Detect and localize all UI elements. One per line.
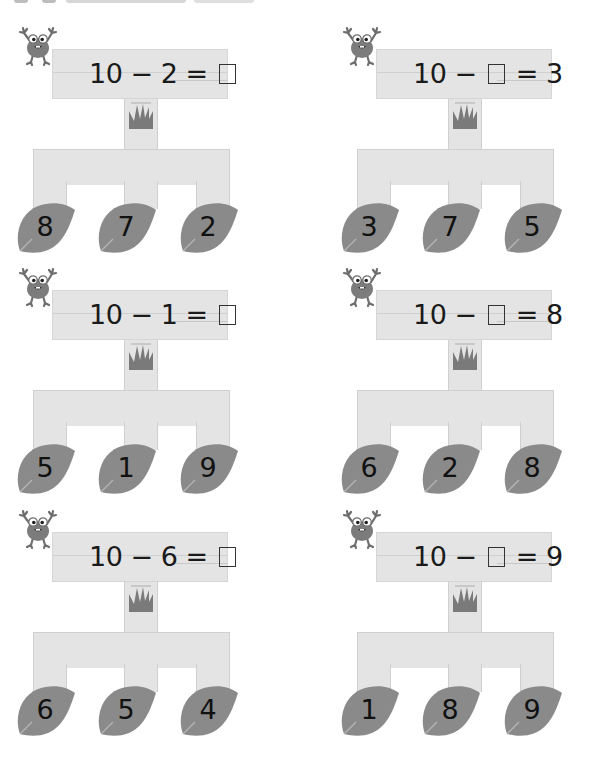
answer-box[interactable] (488, 305, 505, 325)
result (216, 299, 239, 330)
equation-sign: 10 − = 3 (376, 49, 552, 99)
branch-bar (33, 390, 230, 426)
minus-sign: − (130, 58, 152, 89)
leaf-number: 8 (501, 451, 563, 485)
subtrahend: 1 (161, 299, 178, 330)
leaf-choice[interactable]: 2 (419, 442, 481, 494)
leaf-choice[interactable]: 1 (95, 442, 157, 494)
leaf-choice[interactable]: 7 (419, 201, 481, 253)
grass-icon (126, 342, 156, 372)
grass-icon (126, 584, 156, 614)
frog-icon (14, 21, 64, 71)
equation: 10 − 1 = (89, 297, 239, 333)
subtrahend (485, 541, 508, 572)
branch-bar (357, 149, 554, 185)
grass-icon (126, 101, 156, 131)
leaf-number: 9 (177, 451, 239, 485)
equation: 10 − 6 = (89, 539, 239, 575)
leaf-number: 7 (95, 210, 157, 244)
minuend: 10 (413, 299, 446, 330)
leaf-choice[interactable]: 5 (95, 684, 157, 736)
frog-icon (14, 262, 64, 312)
leaf-choice[interactable]: 1 (338, 684, 400, 736)
leaf-choice[interactable]: 6 (14, 684, 76, 736)
equation-sign: 10 − 6 = (52, 532, 228, 582)
result: 3 (546, 58, 563, 89)
equation: 10 − 2 = (89, 56, 239, 92)
leaf-number: 1 (95, 451, 157, 485)
minus-sign: − (130, 541, 152, 572)
leaf-number: 2 (419, 451, 481, 485)
subtraction-puzzle: 10 − = 8 6 2 8 (338, 262, 596, 502)
answer-box[interactable] (219, 64, 236, 84)
equation-sign: 10 − 1 = (52, 290, 228, 340)
frog-icon (14, 504, 64, 554)
leaf-choice[interactable]: 8 (501, 442, 563, 494)
leaf-choice[interactable]: 8 (14, 201, 76, 253)
leaf-number: 7 (419, 210, 481, 244)
leaf-choice[interactable]: 5 (14, 442, 76, 494)
equation: 10 − = 3 (413, 56, 563, 92)
branch-bar (357, 390, 554, 426)
leaf-number: 5 (14, 451, 76, 485)
subtraction-puzzle: 10 − = 9 1 8 9 (338, 504, 596, 744)
result: 9 (546, 541, 563, 572)
leaf-choice[interactable]: 4 (177, 684, 239, 736)
leaf-choice[interactable]: 6 (338, 442, 400, 494)
subtrahend (485, 58, 508, 89)
subtraction-puzzle: 10 − 1 = 5 1 9 (14, 262, 274, 502)
grass-icon (450, 584, 480, 614)
leaf-number: 6 (338, 451, 400, 485)
equals-sign: = (185, 58, 207, 89)
result (216, 58, 239, 89)
leaf-choice[interactable]: 5 (501, 201, 563, 253)
equals-sign: = (516, 541, 538, 572)
equation-sign: 10 − = 8 (376, 290, 552, 340)
leaf-choice[interactable]: 9 (501, 684, 563, 736)
minuend: 10 (89, 299, 122, 330)
leaf-choice[interactable]: 8 (419, 684, 481, 736)
minus-sign: − (454, 58, 476, 89)
answer-box[interactable] (219, 305, 236, 325)
minuend: 10 (89, 58, 122, 89)
leaf-number: 5 (95, 693, 157, 727)
leaf-number: 1 (338, 693, 400, 727)
equation: 10 − = 8 (413, 297, 563, 333)
leaf-number: 2 (177, 210, 239, 244)
grass-icon (450, 342, 480, 372)
leaf-choice[interactable]: 2 (177, 201, 239, 253)
equation-sign: 10 − = 9 (376, 532, 552, 582)
branch-bar (33, 149, 230, 185)
minus-sign: − (454, 541, 476, 572)
leaf-choice[interactable]: 9 (177, 442, 239, 494)
leaf-number: 5 (501, 210, 563, 244)
equation: 10 − = 9 (413, 539, 563, 575)
answer-box[interactable] (219, 547, 236, 567)
minus-sign: − (454, 299, 476, 330)
equals-sign: = (516, 299, 538, 330)
minuend: 10 (89, 541, 122, 572)
leaf-number: 8 (419, 693, 481, 727)
frog-icon (338, 262, 388, 312)
answer-box[interactable] (488, 547, 505, 567)
subtrahend (485, 299, 508, 330)
branch-bar (357, 632, 554, 668)
leaf-number: 3 (338, 210, 400, 244)
equation-sign: 10 − 2 = (52, 49, 228, 99)
subtraction-puzzle: 10 − 6 = 6 5 4 (14, 504, 274, 744)
leaf-choice[interactable]: 3 (338, 201, 400, 253)
leaf-choice[interactable]: 7 (95, 201, 157, 253)
frog-icon (338, 504, 388, 554)
branch-bar (33, 632, 230, 668)
equals-sign: = (516, 58, 538, 89)
minuend: 10 (413, 541, 446, 572)
answer-box[interactable] (488, 64, 505, 84)
equals-sign: = (185, 541, 207, 572)
minuend: 10 (413, 58, 446, 89)
result: 8 (546, 299, 563, 330)
subtrahend: 2 (161, 58, 178, 89)
equals-sign: = (185, 299, 207, 330)
subtrahend: 6 (161, 541, 178, 572)
result (216, 541, 239, 572)
grass-icon (450, 101, 480, 131)
